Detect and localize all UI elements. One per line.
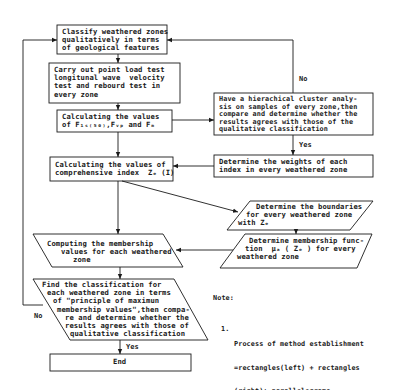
carry-out-line-4: every zone: [54, 91, 165, 99]
find-class-line-7: qualitative classification: [42, 330, 190, 338]
find-class-node: Find the classification foreach weathere…: [42, 281, 190, 338]
note-item-1: 1. Process of method establishment =rect…: [213, 318, 377, 390]
membership-fn-line-4: weathered zone: [237, 253, 364, 261]
calc-z-line-2: comprehensive index Zₑ (I): [55, 169, 175, 177]
note-title: Note:: [213, 295, 377, 303]
cluster-no-label: No: [299, 75, 307, 83]
computing-node: Computing the membershipvalues for each …: [47, 240, 172, 265]
boundaries-node: Determine the boundariesfor every weathe…: [236, 203, 362, 228]
membership-fn-node: Determine membership func-tion μₐ ( Zₑ )…: [237, 237, 364, 262]
end-node: End: [113, 358, 126, 366]
calc-f-node: Calculating the valuesof F₁ₛ₍₅₀₎,Fᵥₚ and…: [62, 113, 159, 129]
carry-out-node: Carry out point load testlongitunal wave…: [54, 66, 165, 99]
note-item-1-line-2: =rectangles(left) + rectangles: [234, 365, 377, 373]
computing-line-3: zone: [47, 256, 172, 264]
note-item-1-num: 1.: [221, 326, 229, 334]
find-yes-label: Yes: [126, 343, 139, 351]
computing-line-2: values for each weathered: [47, 248, 172, 256]
find-no-label: No: [34, 312, 42, 320]
weights-line-2: index in every weathered zone: [219, 166, 347, 174]
boundaries-line-3: with Zₑ: [236, 219, 362, 227]
calc-z-node: Calculating the values ofcomprehensive i…: [55, 161, 175, 177]
note-block: Note: 1. Process of method establishment…: [213, 279, 377, 390]
classify-line-3: of geological features: [62, 44, 168, 52]
weights-node: Determine the weights of eachindex in ev…: [219, 158, 347, 174]
cluster-yes-label: Yes: [299, 141, 312, 149]
end-label: End: [113, 358, 126, 366]
cluster-line-5: qualitative classification: [219, 126, 357, 134]
note-item-1-line-1: Process of method establishment: [234, 341, 377, 349]
cluster-node: Have a hierachical cluster analy-sis on …: [219, 96, 357, 134]
classify-node: Classify weathered zonesqualitatively in…: [62, 28, 168, 53]
calc-f-line-2: of F₁ₛ₍₅₀₎,Fᵥₚ and Fₘ: [62, 121, 159, 129]
